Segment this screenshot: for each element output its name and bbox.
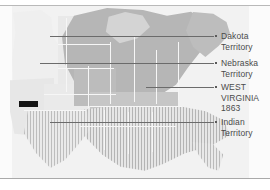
state-border [178, 42, 179, 100]
black-bar-marker [19, 101, 38, 107]
state-border [156, 50, 157, 104]
leader-dot-dakota-territory [215, 35, 217, 37]
state-border [152, 112, 153, 152]
leader-dot-nebraska-territory [215, 62, 217, 64]
callout-label-indian-territory: Indian Territory [221, 117, 253, 138]
callout-label-dakota-territory: Dakota Territory [221, 31, 253, 52]
leader-line-nebraska-territory [40, 63, 214, 64]
state-border [104, 110, 105, 150]
leader-dot-indian-territory [215, 121, 217, 123]
callout-label-nebraska-territory: Nebraska Territory [221, 58, 258, 79]
state-border [110, 42, 111, 104]
callout-label-west-virginia: WEST VIRGINIA 1863 [221, 82, 259, 114]
leader-dot-west-virginia [215, 86, 217, 88]
state-border [134, 36, 135, 102]
map-canvas: Dakota Territory Nebraska Territory WEST… [0, 6, 270, 178]
state-border [88, 66, 89, 108]
state-border [90, 106, 182, 107]
frame-rule-bottom [0, 178, 270, 179]
map-figure: Dakota Territory Nebraska Territory WEST… [0, 0, 270, 190]
state-border [24, 110, 86, 111]
state-border [66, 18, 67, 92]
state-border [128, 112, 129, 154]
leader-line-dakota-territory [50, 36, 214, 37]
leader-line-west-virginia [146, 87, 214, 88]
leader-line-indian-territory [50, 122, 214, 123]
state-border [44, 94, 116, 95]
